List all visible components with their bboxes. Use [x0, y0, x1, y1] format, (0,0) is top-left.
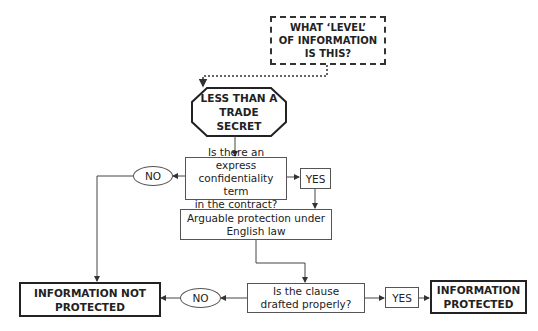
- information-not-protected-box: INFORMATION NOT PROTECTED: [19, 282, 161, 317]
- question2-line-2: drafted properly?: [261, 298, 352, 311]
- yes-label-1: YES: [306, 173, 326, 185]
- start-line-3: IS THIS?: [305, 47, 351, 60]
- category-octagon: LESS THAN A TRADE SECRET: [192, 88, 286, 136]
- not-protected-line-1: INFORMATION NOT: [34, 286, 146, 300]
- arguable-line-2: English law: [226, 225, 285, 238]
- arguable-line-1: Arguable protection under: [187, 212, 325, 225]
- no-label-1: NO: [145, 170, 161, 182]
- protected-line-2: PROTECTED: [444, 297, 514, 311]
- not-protected-line-2: PROTECTED: [55, 300, 125, 314]
- no-label-2: NO: [192, 292, 208, 304]
- question1-line-1: Is there an express: [186, 146, 286, 172]
- category-line-2: TRADE: [219, 105, 258, 119]
- arguable-protection-box: Arguable protection under English law: [180, 209, 332, 240]
- start-question-box: WHAT ‘LEVEL’ OF INFORMATION IS THIS?: [270, 16, 386, 65]
- question1-line-2: confidentiality term: [186, 172, 286, 198]
- yes-branch-2: YES: [385, 287, 419, 308]
- protected-line-1: INFORMATION: [437, 283, 520, 297]
- yes-label-2: YES: [392, 292, 412, 304]
- yes-branch-1: YES: [300, 168, 331, 189]
- information-protected-box: INFORMATION PROTECTED: [430, 280, 527, 314]
- category-line-1: LESS THAN A: [201, 91, 278, 105]
- question2-line-1: Is the clause: [273, 285, 339, 298]
- no-branch-2: NO: [180, 288, 221, 308]
- question-clause-drafted-box: Is the clause drafted properly?: [247, 283, 365, 313]
- start-line-2: OF INFORMATION: [279, 34, 377, 47]
- question-express-term-box: Is there an express confidentiality term…: [185, 157, 287, 200]
- category-line-3: SECRET: [217, 119, 262, 133]
- no-branch-1: NO: [133, 166, 173, 186]
- start-line-1: WHAT ‘LEVEL’: [290, 21, 366, 34]
